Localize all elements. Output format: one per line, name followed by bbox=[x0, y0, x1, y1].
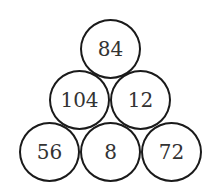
circle-middle-right: 12 bbox=[110, 70, 171, 130]
circle-middle-left: 104 bbox=[49, 70, 110, 130]
circle-value: 8 bbox=[104, 140, 117, 164]
circle-value: 104 bbox=[60, 88, 98, 112]
circle-value: 72 bbox=[159, 140, 184, 164]
circle-value: 56 bbox=[37, 140, 62, 164]
circle-bottom-middle: 8 bbox=[80, 122, 141, 182]
circle-bottom-right: 72 bbox=[141, 122, 202, 182]
circle-value: 84 bbox=[98, 37, 123, 61]
circle-value: 12 bbox=[128, 88, 153, 112]
circle-bottom-left: 56 bbox=[19, 122, 80, 182]
